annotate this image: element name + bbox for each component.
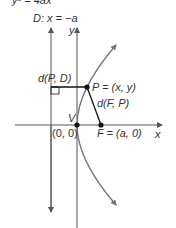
distance-FP-label: d(F, P) — [97, 97, 130, 109]
equation-label: y² = 4ax — [11, 0, 52, 6]
distance-PD-label: d(P, D) — [38, 72, 72, 84]
curve-arrow-bottom — [112, 200, 116, 205]
vertex-label: V — [68, 112, 77, 124]
parabola-diagram: y² = 4ax D: x = −a y x d(P, D) P = (x, y… — [0, 0, 176, 228]
point-P — [84, 84, 89, 89]
y-axis-label: y — [68, 24, 76, 36]
curve-arrow-top — [112, 45, 116, 50]
focus-label: F = (a, 0) — [97, 127, 142, 139]
x-axis-label: x — [154, 128, 161, 140]
directrix-label: D: x = −a — [33, 12, 78, 24]
vertex-coords-label: (0, 0) — [52, 127, 78, 139]
point-P-label: P = (x, y) — [92, 81, 136, 93]
right-angle-marker — [51, 87, 59, 94]
